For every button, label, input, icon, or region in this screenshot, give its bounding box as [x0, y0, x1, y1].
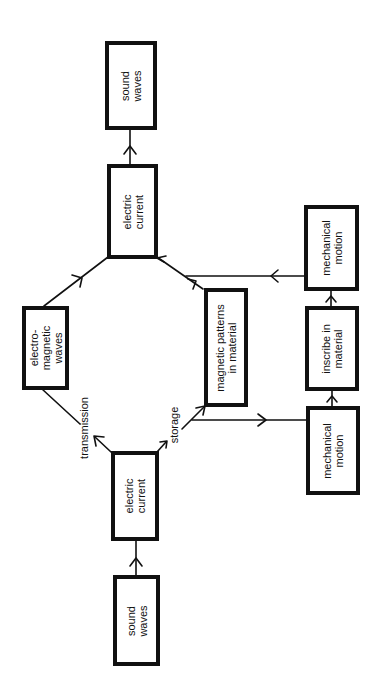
node-sound-waves-out: sound waves	[105, 41, 157, 130]
node-electric-current-out: electric current	[107, 164, 158, 259]
edge-transmission-stub	[95, 437, 111, 452]
arrowhead-into-current-out	[157, 256, 166, 262]
node-label: mechanical motion	[321, 423, 345, 479]
node-inscribe-in-material: inscribe in material	[305, 306, 359, 391]
node-label: inscribe in material	[320, 324, 344, 374]
edge-em-to-current-out	[44, 257, 108, 306]
edge-transmission-line	[42, 389, 80, 424]
node-label: mechanical motion	[320, 220, 344, 276]
edge-storage-line	[182, 406, 205, 429]
arrowhead-magnetic	[188, 279, 196, 289]
edge-label-storage: storage	[168, 407, 180, 444]
node-sound-waves-in: sound waves	[113, 575, 160, 666]
node-label: electro- magnetic waves	[28, 326, 64, 371]
node-label: electric current	[123, 479, 147, 514]
sound-recording-flow-diagram: sound waves electric current electro- ma…	[0, 0, 384, 683]
node-label: sound waves	[119, 70, 143, 101]
edge-label-transmission: transmission	[78, 397, 90, 459]
node-label: electric current	[121, 194, 145, 229]
node-mechanical-motion-in: mechanical motion	[306, 406, 360, 495]
node-electromagnetic-waves: electro- magnetic waves	[22, 306, 69, 390]
node-electric-current-in: electric current	[111, 451, 159, 541]
node-mechanical-motion-out: mechanical motion	[304, 205, 359, 291]
node-label: magnetic patterns in material	[214, 304, 238, 391]
node-label: sound waves	[125, 605, 149, 636]
node-magnetic-patterns: magnetic patterns in material	[204, 288, 248, 407]
